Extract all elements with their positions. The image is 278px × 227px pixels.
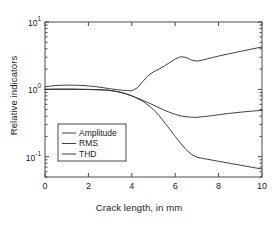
legend-item-label: THD bbox=[79, 149, 96, 159]
x-tick-label: 0 bbox=[31, 181, 59, 191]
x-tick-label: 4 bbox=[118, 181, 146, 191]
y-axis-label: Relative indicators bbox=[8, 36, 19, 156]
x-axis-label: Crack length, in mm bbox=[0, 202, 278, 213]
x-tick-label: 2 bbox=[74, 181, 102, 191]
legend-item-label: Amplitude bbox=[79, 128, 117, 138]
x-tick-label: 6 bbox=[161, 181, 189, 191]
semilog-chart bbox=[0, 0, 278, 227]
x-tick-label: 10 bbox=[248, 181, 276, 191]
y-tick-label: 10-1 bbox=[8, 151, 41, 163]
y-tick-label: 100 bbox=[8, 83, 41, 95]
y-tick-label: 101 bbox=[8, 16, 41, 28]
legend-item-label: RMS bbox=[79, 138, 98, 148]
x-tick-label: 8 bbox=[205, 181, 233, 191]
